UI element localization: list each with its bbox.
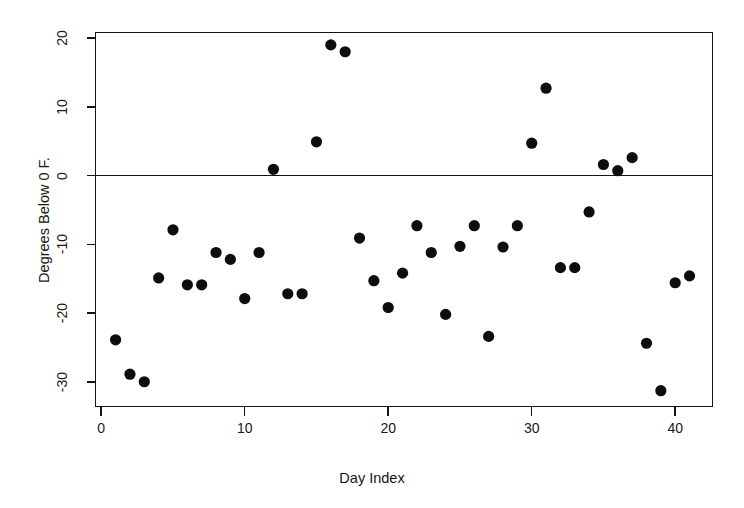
data-point [670, 277, 681, 288]
data-point [469, 220, 480, 231]
data-point [627, 152, 638, 163]
data-point [655, 385, 666, 396]
data-point [383, 302, 394, 313]
y-tick-label: -30 [55, 362, 69, 402]
data-point [325, 39, 336, 50]
data-point [569, 262, 580, 273]
data-point [182, 279, 193, 290]
data-point [311, 136, 322, 147]
data-point [110, 334, 121, 345]
x-tick-label: 0 [81, 421, 121, 435]
data-point [584, 206, 595, 217]
x-axis-ticks [101, 407, 675, 416]
x-tick-label: 30 [512, 421, 552, 435]
data-point [139, 376, 150, 387]
data-point [454, 241, 465, 252]
data-point [540, 83, 551, 94]
x-axis-title: Day Index [0, 470, 744, 486]
data-point [368, 275, 379, 286]
y-tick-label: 0 [55, 156, 69, 196]
data-point [340, 46, 351, 57]
data-point [239, 293, 250, 304]
data-point [153, 272, 164, 283]
data-point [426, 247, 437, 258]
data-point [555, 262, 566, 273]
x-tick-label: 10 [225, 421, 265, 435]
data-point [282, 288, 293, 299]
data-point [397, 268, 408, 279]
data-point [297, 288, 308, 299]
y-tick-label: 20 [55, 18, 69, 58]
data-point [354, 232, 365, 243]
data-point [411, 220, 422, 231]
data-point [526, 138, 537, 149]
y-tick-label: -10 [55, 224, 69, 264]
data-point [124, 369, 135, 380]
y-tick-label: 10 [55, 87, 69, 127]
data-point [512, 220, 523, 231]
x-tick-label: 20 [368, 421, 408, 435]
data-point [268, 164, 279, 175]
data-point [440, 309, 451, 320]
data-point [167, 224, 178, 235]
scatter-plot-figure: 010203040 20100-10-20-30 Degrees Below 0… [0, 0, 744, 508]
data-point [641, 338, 652, 349]
y-axis-title: Degrees Below 0 F. [36, 90, 52, 350]
data-point [612, 165, 623, 176]
data-point [483, 331, 494, 342]
y-axis-ticks [87, 38, 96, 382]
data-point [196, 279, 207, 290]
data-point [598, 159, 609, 170]
data-points-layer [110, 39, 695, 396]
plot-frame [96, 33, 713, 407]
data-point [210, 247, 221, 258]
y-tick-label: -20 [55, 293, 69, 333]
data-point [684, 270, 695, 281]
x-tick-label: 40 [655, 421, 695, 435]
data-point [225, 254, 236, 265]
data-point [497, 241, 508, 252]
data-point [253, 247, 264, 258]
